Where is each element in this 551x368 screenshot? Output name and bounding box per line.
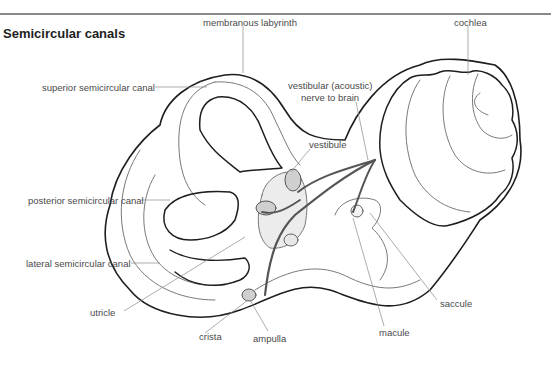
ampulla-lateral (242, 289, 256, 301)
ampulla-superior (285, 169, 301, 191)
label-vestibule: vestibule (309, 139, 347, 150)
label-utricle: utricle (90, 307, 115, 318)
label-vestibular-nerve-line2: nerve to brain (301, 92, 359, 103)
label-cochlea: cochlea (454, 17, 487, 28)
label-ampulla: ampulla (253, 333, 286, 344)
vestibular-nerve-branch-1 (298, 160, 375, 192)
utricle-body (284, 234, 298, 246)
label-vestibular-nerve-line1: vestibular (acoustic) (288, 80, 372, 91)
label-crista: crista (199, 331, 222, 342)
label-macule: macule (379, 327, 410, 338)
cochlea-turn-1 (406, 80, 470, 212)
cochlea-turn-3 (472, 74, 512, 138)
label-membranous-labyrinth: membranous labyrinth (203, 17, 297, 28)
label-superior-canal: superior semicircular canal (42, 82, 155, 93)
vestibular-nerve-branch-2 (353, 160, 375, 212)
superior-canal-inner (200, 97, 282, 172)
cochlea-apex (474, 93, 488, 115)
cochlea-outline (380, 71, 517, 226)
tube-lower (255, 269, 420, 290)
lateral-canal-lower (170, 250, 249, 285)
posterior-canal-outer (121, 150, 215, 300)
cochlea-turn-2 (443, 76, 505, 173)
label-posterior-canal: posterior semicircular canal (28, 195, 144, 206)
lateral-canal-loop (164, 192, 238, 240)
inner-ear-illustration (0, 0, 551, 368)
label-saccule: saccule (440, 298, 472, 309)
label-lateral-canal: lateral semicircular canal (26, 258, 131, 269)
